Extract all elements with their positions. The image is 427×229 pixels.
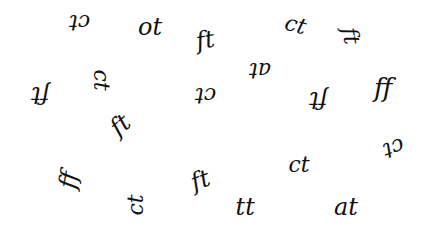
- ligature-glyph: ft: [194, 27, 216, 54]
- ligature-glyph: ft: [338, 26, 363, 47]
- ligature-glyph: ft: [309, 88, 328, 112]
- ligature-glyph: ct: [282, 12, 308, 39]
- ligature-glyph: ft: [31, 83, 50, 107]
- ligature-glyph: at: [334, 195, 358, 219]
- ligature-glyph: ft: [105, 110, 135, 140]
- ligature-glyph: ff: [55, 170, 82, 191]
- ligature-glyph: ct: [379, 134, 406, 162]
- ligature-glyph: ct: [124, 194, 146, 215]
- ligature-glyph: ct: [69, 11, 90, 33]
- ligature-glyph: ct: [89, 69, 111, 90]
- ligature-glyph: ct: [195, 84, 216, 106]
- ligature-glyph: tt: [236, 195, 255, 219]
- ligature-canvas: ct ot ft ct ft ft ct ft ct at ft ff ff c…: [0, 0, 427, 229]
- ligature-glyph: ct: [289, 154, 310, 176]
- ligature-glyph: ff: [374, 75, 392, 101]
- ligature-glyph: ft: [187, 166, 213, 195]
- ligature-glyph: ot: [138, 15, 162, 39]
- ligature-glyph: at: [249, 59, 271, 81]
